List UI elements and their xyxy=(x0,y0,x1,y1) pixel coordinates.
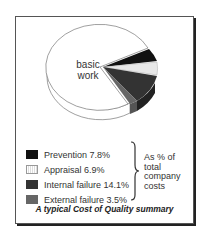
brace-icon xyxy=(129,141,141,201)
legend-item-appraisal: Appraisal 6.9% xyxy=(26,162,129,177)
swatch-icon xyxy=(26,165,38,174)
legend-item-internal-failure: Internal failure 14.1% xyxy=(26,177,129,192)
swatch-icon xyxy=(26,150,38,159)
legend-label: Appraisal 6.9% xyxy=(44,165,105,175)
legend-label: Internal failure 14.1% xyxy=(44,180,129,190)
legend: Prevention 7.8% Appraisal 6.9% Internal … xyxy=(26,147,129,207)
note-line: costs xyxy=(144,182,194,192)
basic-work-label-line1: basic xyxy=(68,59,108,70)
legend-item-prevention: Prevention 7.8% xyxy=(26,147,129,162)
chart-caption: A typical Cost of Quality summary xyxy=(15,204,194,214)
legend-label: External failure 3.5% xyxy=(44,195,127,205)
legend-label: Prevention 7.8% xyxy=(44,150,110,160)
basic-work-label-line2: work xyxy=(68,70,108,81)
units-note: As % of total company costs xyxy=(144,153,194,191)
swatch-icon xyxy=(26,180,38,189)
basic-work-label: basic work xyxy=(68,59,108,81)
swatch-icon xyxy=(26,195,38,204)
